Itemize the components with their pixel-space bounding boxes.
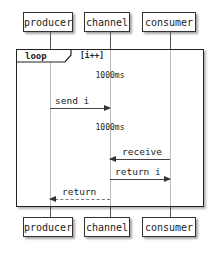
lifeline-producer-top — [50, 32, 51, 49]
message-arrow-receive — [110, 159, 170, 160]
arrowhead-right-icon — [104, 105, 111, 111]
arrowhead-left-icon — [49, 196, 56, 202]
message-label-return: return — [62, 186, 96, 197]
loop-guard: [i++] — [80, 50, 104, 62]
delay-label: 1000ms — [80, 71, 140, 80]
delay-label: 1000ms — [80, 123, 140, 132]
arrowhead-right-icon — [164, 176, 171, 182]
participant-consumer-bottom: consumer — [142, 217, 196, 237]
participant-consumer-top: consumer — [142, 12, 196, 32]
message-arrow-return — [50, 199, 110, 200]
participant-producer-top: producer — [23, 12, 73, 32]
message-arrow-return-i — [110, 179, 170, 180]
message-arrow-send-i — [50, 108, 110, 109]
message-label-send-i: send i — [55, 95, 89, 106]
loop-keyword: loop — [17, 50, 47, 62]
lifeline-consumer-top — [170, 32, 171, 49]
participant-channel-top: channel — [84, 12, 130, 32]
arrowhead-left-icon — [109, 156, 116, 162]
lifeline-channel-top — [110, 32, 111, 49]
participant-channel-bottom: channel — [84, 217, 130, 237]
participant-producer-bottom: producer — [23, 217, 73, 237]
message-label-return-i: return i — [115, 166, 161, 177]
message-label-receive: receive — [122, 146, 162, 157]
